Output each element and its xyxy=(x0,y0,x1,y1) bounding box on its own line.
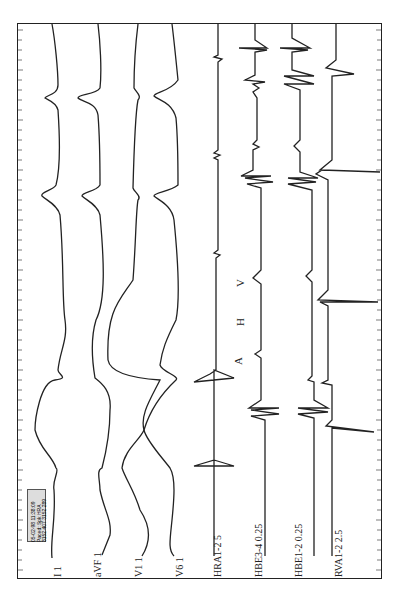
channel-label-avf: aVF 1 xyxy=(92,552,103,577)
channel-label-hbe12: HBE1-2 0.25 xyxy=(293,524,304,577)
trace-hra12 xyxy=(194,24,234,556)
annotation-a: A xyxy=(232,357,244,365)
annotation-v: V xyxy=(234,279,246,287)
left-ticks xyxy=(18,30,23,570)
channel-label-v1: V1 1 xyxy=(133,557,144,577)
info-intervals: 3152 407 3152 289 xyxy=(41,499,47,542)
trace-rva12 xyxy=(316,24,380,556)
trace-lead-v1 xyxy=(108,24,160,556)
trace-lead-avf xyxy=(78,24,110,555)
channel-label-i: I 1 xyxy=(52,566,63,577)
trace-hbe12 xyxy=(280,24,328,556)
channel-label-hbe34: HBE3-4 0.25 xyxy=(253,524,264,577)
right-ticks xyxy=(376,30,381,570)
trace-lead-i xyxy=(35,24,66,558)
channel-label-rva12: RVA1-2 2.5 xyxy=(333,530,344,577)
annotation-h: H xyxy=(234,318,246,326)
channel-label-v6: V6 1 xyxy=(174,557,185,577)
traces xyxy=(0,0,395,606)
trace-hbe34 xyxy=(239,24,279,556)
channel-label-hra12: HRA1-2 5 xyxy=(212,535,223,577)
trace-lead-v6 xyxy=(144,24,178,556)
recording-info-box: 05-02-98 11:38:09 Paced: Spk HRA 3152 40… xyxy=(27,489,46,542)
